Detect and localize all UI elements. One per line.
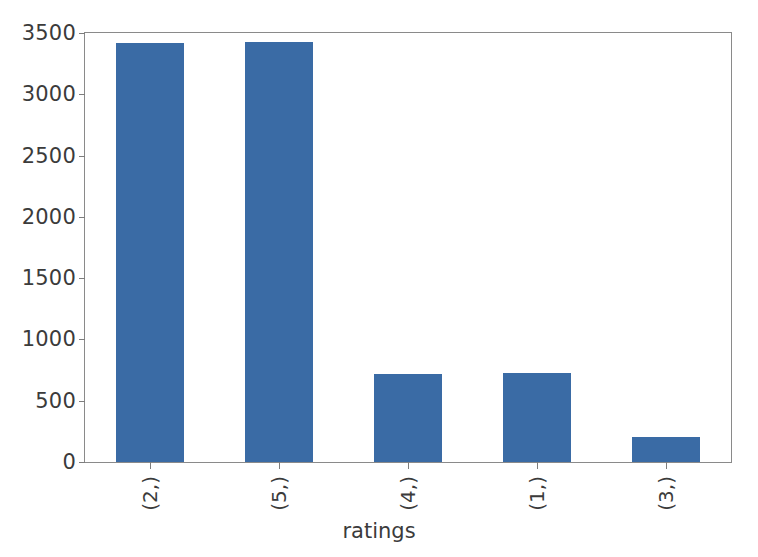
y-axis-tick-mark: [79, 339, 85, 340]
x-axis-tick-label: (4,): [396, 476, 420, 511]
x-axis-tick-label: (3,): [654, 476, 678, 511]
x-axis-tick-mark: [150, 462, 151, 469]
y-axis-tick-label: 2000: [22, 205, 76, 229]
x-axis-tick-label: (5,): [267, 476, 291, 511]
y-axis-tick-mark: [79, 401, 85, 402]
y-axis-tick-label: 3500: [22, 21, 76, 45]
plot-area: 0500100015002000250030003500(2,)(5,)(4,)…: [84, 32, 732, 463]
bar: [632, 437, 700, 462]
x-axis-tick-mark: [279, 462, 280, 469]
y-axis-tick-mark: [79, 94, 85, 95]
y-axis-tick-label: 3000: [22, 82, 76, 106]
x-axis-title: ratings: [0, 519, 758, 543]
y-axis-tick-mark: [79, 217, 85, 218]
y-axis-tick-mark: [79, 33, 85, 34]
bar: [503, 373, 571, 462]
bar: [245, 42, 313, 462]
y-axis-tick-mark: [79, 278, 85, 279]
bar: [374, 374, 442, 462]
y-axis-tick-mark: [79, 462, 85, 463]
x-axis-tick-label: (2,): [138, 476, 162, 511]
x-axis-tick-mark: [537, 462, 538, 469]
y-axis-tick-label: 1000: [22, 327, 76, 351]
x-axis-tick-mark: [666, 462, 667, 469]
y-axis-tick-label: 2500: [22, 144, 76, 168]
y-axis-tick-label: 0: [62, 450, 76, 474]
y-axis-tick-label: 1500: [22, 266, 76, 290]
bar: [116, 43, 184, 462]
y-axis-tick-label: 500: [35, 389, 76, 413]
x-axis-tick-mark: [408, 462, 409, 469]
bar-chart-figure: 0500100015002000250030003500(2,)(5,)(4,)…: [0, 0, 758, 557]
x-axis-tick-label: (1,): [525, 476, 549, 511]
y-axis-tick-mark: [79, 156, 85, 157]
